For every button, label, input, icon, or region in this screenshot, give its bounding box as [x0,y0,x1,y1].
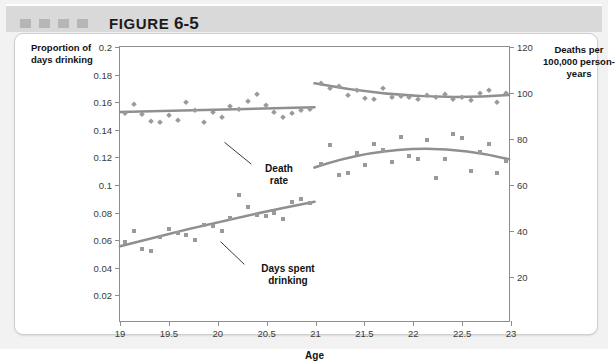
data-point [381,148,385,152]
x-axis-tick-label: 21.5 [355,328,374,339]
x-axis-tick-label: 22.5 [453,328,472,339]
data-point [272,211,276,215]
data-point [478,150,482,154]
data-point [399,135,403,139]
x-axis-tick [511,321,512,326]
y-axis-left-tick-label: 0.08 [94,207,113,218]
x-axis-tick-label: 20.5 [257,328,276,339]
y-axis-left-tick [115,240,120,241]
data-point [363,163,367,167]
data-point [319,80,324,85]
y-axis-left-tick-label: 0.04 [94,262,113,273]
data-point [380,86,385,91]
data-point [416,96,421,101]
y-axis-right-tick-label: 60 [517,180,528,191]
data-point [193,108,198,113]
data-point [443,157,447,161]
data-point [469,169,473,173]
data-point [140,111,145,116]
x-axis-tick [120,321,121,326]
data-point [424,93,429,98]
x-axis-tick-label: 22 [408,328,419,339]
data-point [390,160,394,164]
data-point [346,171,350,175]
data-point [193,238,197,242]
header-square [20,19,31,28]
data-point [184,233,188,237]
y-axis-left-tick [115,75,120,76]
y-axis-left-tick-label: 0.02 [94,290,113,301]
data-point [281,217,285,221]
header-square [77,19,88,28]
x-axis-tick [169,321,170,326]
data-point [290,200,294,204]
data-point [263,102,268,107]
x-axis-tick [462,321,463,326]
x-axis-tick [218,321,219,326]
data-point [363,96,368,101]
data-point [398,93,403,98]
y-axis-left-tick [115,47,120,48]
data-point [246,98,251,103]
y-axis-right-tick [509,93,514,94]
data-point [504,91,509,96]
x-axis-tick-label: 19 [115,328,126,339]
data-point [328,86,333,91]
x-axis-tick-label: 19.5 [160,328,179,339]
data-point [246,205,250,209]
data-point [140,247,144,251]
data-point [211,224,215,228]
y-axis-right-tick-label: 100 [517,88,533,99]
x-axis-tick-label: 23 [506,328,517,339]
data-point [345,92,350,97]
y-axis-left-tick [115,213,120,214]
fit-line [120,202,315,247]
figure-title: FIGURE 6-5 [109,14,199,34]
data-point [372,142,376,146]
data-point [308,201,312,205]
data-point [255,213,259,217]
y-axis-right-tick [509,231,514,232]
data-point [442,91,447,96]
y-axis-left-tick-label: 0.12 [94,152,113,163]
data-point [416,157,420,161]
x-axis-title: Age [119,350,510,361]
x-axis-tick [364,321,365,326]
data-point [176,231,180,235]
data-point [123,240,127,244]
y-axis-right-title: Deaths per 100,000 person-years [543,44,615,80]
data-point [407,154,411,158]
data-point [425,138,429,142]
data-point [264,214,268,218]
y-axis-left-tick [115,102,120,103]
y-axis-right-tick-label: 120 [517,42,533,53]
x-axis-tick [316,321,317,326]
data-point [495,99,500,104]
data-point [307,107,312,112]
series-annotation: Death rate [258,163,300,187]
data-point [328,143,332,147]
data-point [281,115,286,120]
y-axis-left-tick [115,295,120,296]
annotation-leader-line [224,142,251,164]
data-point [202,223,206,227]
y-axis-left-tick-label: 0.2 [99,42,112,53]
data-point [468,98,473,103]
data-point [237,107,242,112]
data-point [149,118,154,123]
data-point [299,197,303,201]
data-point [433,95,438,100]
header-decoration-squares [20,19,88,28]
data-point [389,95,394,100]
data-point [298,107,303,112]
data-point [219,114,224,119]
data-point [149,249,153,253]
data-point [319,162,323,166]
data-point [210,109,215,114]
y-axis-left-tick [115,185,120,186]
data-point [372,96,377,101]
data-point [202,120,207,125]
figure-number: 6-5 [174,14,199,33]
x-axis-tick-label: 20 [212,328,223,339]
